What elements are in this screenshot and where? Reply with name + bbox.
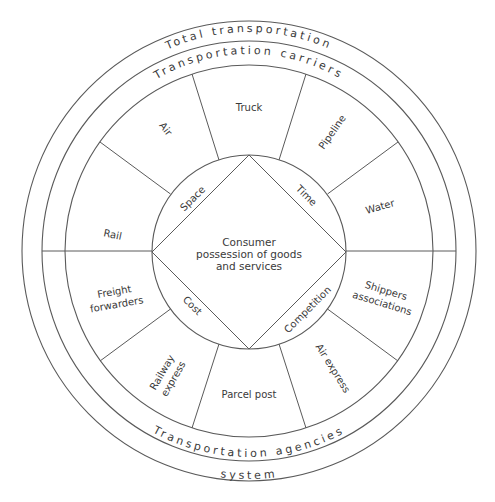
utility-time: Time: [293, 182, 319, 208]
utility-competition: Competition: [282, 284, 333, 335]
segment-air-express: Air express: [314, 342, 353, 395]
segment-air: Air: [157, 120, 175, 138]
segment-pipeline: Pipeline: [316, 113, 347, 151]
segment-parcel-post: Parcel post: [222, 389, 277, 400]
segment-shippers-associations: Shippers associations: [351, 276, 417, 317]
segment-freight-forwarders: Freight forwarders: [87, 281, 144, 314]
ring-label-transportation-carriers: Transportation carriers: [151, 44, 347, 82]
svg-text:possession of goods: possession of goods: [196, 248, 302, 260]
segment-rail: Rail: [103, 227, 123, 242]
utility-space: Space: [178, 184, 207, 213]
svg-text:and services: and services: [216, 260, 282, 272]
ring-label-system: system: [220, 467, 278, 482]
segment-railway-express: Railway express: [148, 353, 188, 399]
utility-cost: Cost: [181, 294, 205, 318]
svg-text:Consumer: Consumer: [222, 236, 276, 248]
segment-truck: Truck: [235, 102, 263, 113]
center-label: Consumer possession of goods and service…: [196, 236, 302, 272]
ring-label-transportation-agencies: Transportation agencies: [150, 423, 347, 460]
segment-water: Water: [364, 197, 396, 216]
transportation-system-diagram: Total transportation Transportation carr…: [0, 0, 495, 502]
